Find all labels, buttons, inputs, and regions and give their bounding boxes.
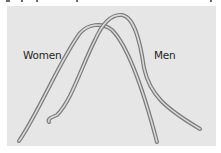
men-label: Men [154,50,176,61]
distribution-curves [0,0,221,153]
women-label: Women [23,50,62,61]
women-curve [19,25,157,142]
men-curve [49,15,200,129]
